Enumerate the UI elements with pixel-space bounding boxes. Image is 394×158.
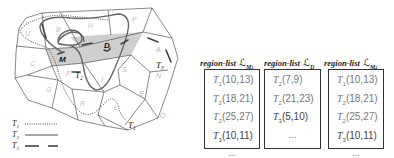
list-item: T2(21,23) [265,92,320,111]
list-item: T2(18,21) [329,92,383,111]
region-list-m1: region-listℒM1 T1(10,13) T2(18,21) T2(25… [200,57,254,69]
region-label-s: S [122,66,127,73]
region-list-d: region-listℒD T2(7,9) T2(21,23) T3(5,10)… [264,57,314,69]
region-label-i: I [101,76,103,83]
region-list-box: T2(7,9) T2(21,23) T3(5,10) ... [264,69,321,149]
list-item: T2(7,9) [265,73,320,92]
legend-label-t2: T2 [12,130,19,140]
region-label-a: A [155,46,161,53]
region-label-p: P [132,16,137,23]
region-label-m: M [59,55,66,64]
region-list-title: region-listℒM1 [200,57,254,69]
region-label-c: C [30,60,36,67]
trajectory-label-t1: T1 [128,120,136,131]
region-label-b: B [56,26,61,33]
list-item: T1(10,13) [329,73,383,92]
trajectory-label-t3: T3 [156,60,164,71]
list-item: T3(10,11) [329,129,383,148]
region-label-l: L [114,104,118,111]
legend: T1 T2 T3 [12,119,58,151]
region-label-d: D [104,41,110,50]
region-label-h: H [88,22,94,29]
region-label-f: F [66,70,71,77]
list-item: T1(10,13) [205,73,259,92]
list-item: T2(18,21) [205,92,259,111]
list-ellipsis: ... [205,147,259,158]
list-item: T2(25,27) [205,110,259,129]
region-list-title: region-listℒD [264,57,314,69]
list-ellipsis: ... [265,129,320,141]
region-list-title: region-listℒM2 [324,57,378,69]
list-ellipsis: ... [329,147,383,158]
region-label-r: R [80,100,85,107]
region-list-m2: region-listℒM2 T1(10,13) T2(18,21) T2(25… [324,57,378,69]
list-item: T3(10,11) [205,129,259,148]
list-item: T3(5,10) [265,110,320,129]
legend-label-t1: T1 [12,119,19,129]
legend-label-t3: T3 [12,141,19,151]
region-list-box: T1(10,13) T2(18,21) T2(25,27) T3(10,11) … [204,69,260,149]
trajectory-label-t2: T2 [75,70,83,81]
list-item: T2(25,27) [329,110,383,129]
region-map: U B H P C A F S I N G R E L O M D T3 T2 [0,0,200,158]
region-list-box: T1(10,13) T2(18,21) T2(25,27) T3(10,11) … [328,69,384,149]
region-label-u: U [25,30,31,37]
region-label-g: G [46,86,52,93]
region-label-n: N [156,72,162,79]
region-label-o: O [160,112,166,119]
region-label-e: E [139,90,144,97]
